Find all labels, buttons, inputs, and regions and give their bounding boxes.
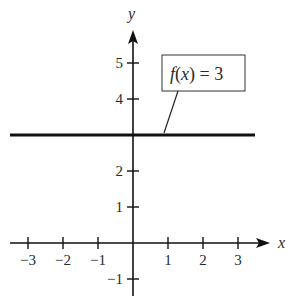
y-tick-label: 4: [116, 91, 124, 107]
y-axis-label: y: [126, 5, 136, 23]
x-tick-label: −3: [20, 252, 36, 268]
graph: −3−2−1123−11245 f(x) = 3 y x: [0, 0, 293, 301]
x-tick-label: 1: [164, 252, 172, 268]
function-callout: f(x) = 3: [162, 55, 245, 133]
x-tick-label: 3: [234, 252, 242, 268]
y-tick-label: 5: [116, 55, 124, 71]
x-tick-label: −1: [90, 252, 106, 268]
function-label: f(x) = 3: [170, 64, 223, 85]
callout-leader: [164, 91, 178, 133]
x-tick-label: 2: [199, 252, 207, 268]
y-tick-label: 2: [116, 163, 124, 179]
y-tick-label: 1: [116, 199, 124, 215]
x-axis-label: x: [277, 234, 285, 251]
y-tick-label: −1: [107, 271, 123, 287]
x-tick-label: −2: [55, 252, 71, 268]
